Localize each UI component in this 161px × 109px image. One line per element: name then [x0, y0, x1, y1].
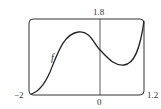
- x-max-label: 1.2: [147, 90, 158, 100]
- curve-f: [31, 21, 144, 94]
- x-min-label: −2: [14, 90, 24, 100]
- origin-label: 0: [97, 97, 102, 107]
- function-graph: 1.8 −2 1.2 0 f: [0, 0, 161, 109]
- viewing-rectangle: [29, 19, 144, 95]
- y-max-label: 1.8: [93, 7, 105, 17]
